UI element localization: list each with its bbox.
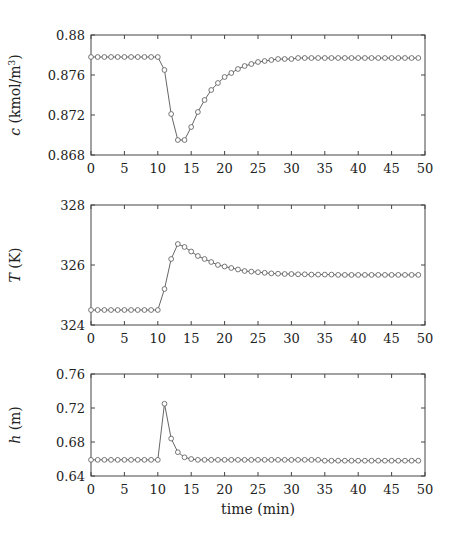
data-point-marker [209,457,214,462]
x-tick-label: 10 [150,331,167,346]
data-point-marker [389,273,394,278]
y-tick-label: 0.76 [56,367,85,382]
y-tick-label: 0.72 [56,401,85,416]
x-tick-label: 25 [250,331,267,346]
y-tick-label: 0.88 [56,28,85,43]
y-tick-label: 0.868 [48,148,85,163]
data-point-marker [129,457,134,462]
x-tick-label: 35 [317,331,334,346]
data-point-marker [95,308,100,313]
data-point-marker [122,308,127,313]
data-point-marker [282,57,287,62]
data-point-marker [309,457,314,462]
data-point-marker [175,242,180,247]
data-point-marker [296,272,301,277]
data-point-marker [102,457,107,462]
data-point-marker [89,55,94,60]
data-point-marker [269,58,274,63]
x-tick-label: 30 [283,161,300,176]
data-point-marker [142,308,147,313]
data-point-marker [356,458,361,463]
data-point-marker [202,457,207,462]
data-point-marker [162,68,167,73]
data-point-marker [135,55,140,60]
y-axis-label: c (kmol/m3) [7,54,23,136]
data-point-marker [369,273,374,278]
data-point-marker [142,55,147,60]
x-tick-label: 40 [350,482,367,497]
data-point-marker [236,267,241,272]
data-point-marker [269,457,274,462]
y-tick-label: 0.872 [48,108,85,123]
x-tick-label: 35 [317,482,334,497]
data-point-marker [409,273,414,278]
data-point-marker [195,110,200,115]
data-point-marker [349,56,354,61]
y-axis-label: h (m) [7,406,23,444]
data-point-marker [182,455,187,460]
data-point-marker [242,457,247,462]
y-tick-label: 0.876 [48,68,85,83]
data-point-marker [309,272,314,277]
x-tick-label: 50 [417,482,434,497]
data-point-marker [122,457,127,462]
y-tick-label: 324 [60,318,85,333]
data-point-marker [169,257,174,262]
x-tick-label: 25 [250,482,267,497]
data-point-marker [236,67,241,72]
data-point-marker [115,308,120,313]
data-point-marker [383,56,388,61]
data-point-marker [135,308,140,313]
data-point-marker [182,245,187,250]
series-line [91,57,418,140]
x-tick-label: 20 [216,161,233,176]
x-tick-label: 20 [216,482,233,497]
data-point-marker [302,56,307,61]
data-point-marker [169,436,174,441]
data-point-marker [416,273,421,278]
y-tick-label: 0.64 [56,469,85,484]
data-point-marker [282,457,287,462]
data-point-marker [216,81,221,86]
data-point-marker [175,450,180,455]
x-tick-label: 20 [216,331,233,346]
data-point-marker [249,269,254,274]
data-point-marker [296,457,301,462]
data-point-marker [356,56,361,61]
data-point-marker [383,458,388,463]
data-point-marker [349,458,354,463]
data-point-marker [175,138,180,143]
data-point-marker [249,457,254,462]
x-tick-label: 5 [120,482,128,497]
data-point-marker [396,273,401,278]
data-point-marker [302,272,307,277]
data-point-marker [276,271,281,276]
x-tick-label: 15 [183,331,200,346]
x-tick-label: 45 [383,161,400,176]
data-point-marker [376,458,381,463]
data-point-marker [95,457,100,462]
data-point-marker [369,458,374,463]
data-point-marker [403,56,408,61]
data-point-marker [209,260,214,265]
x-tick-label: 45 [383,482,400,497]
data-point-marker [282,272,287,277]
data-point-marker [109,55,114,60]
data-point-marker [276,57,281,62]
data-point-marker [102,308,107,313]
data-point-marker [195,254,200,259]
x-tick-label: 5 [120,161,128,176]
data-point-marker [155,55,160,60]
data-point-marker [383,273,388,278]
data-point-marker [115,55,120,60]
data-point-marker [169,112,174,117]
data-point-marker [322,56,327,61]
data-point-marker [249,62,254,67]
plot-frame [91,35,425,155]
x-tick-label: 50 [417,331,434,346]
data-point-marker [322,458,327,463]
data-point-marker [316,272,321,277]
data-point-marker [216,457,221,462]
x-tick-label: 0 [87,331,95,346]
data-point-marker [222,75,227,80]
